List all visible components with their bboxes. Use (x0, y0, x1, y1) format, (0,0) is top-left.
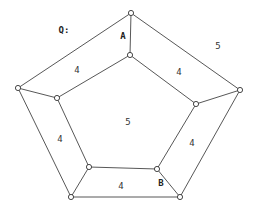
vertex-outer-bottom-right (177, 194, 182, 199)
planar-graph-diagram: Q: A B 5 5 4 4 4 4 4 (0, 0, 256, 209)
graph-name-label: Q: (59, 26, 70, 35)
face-label-center: 5 (125, 118, 130, 127)
face-label-left: 4 (57, 135, 62, 144)
spoke-left (18, 88, 57, 98)
face-label-upper-right: 4 (176, 68, 181, 77)
face-label-right: 4 (189, 139, 194, 148)
vertex-outer-left (15, 85, 20, 90)
spoke-bottom-left (71, 167, 89, 197)
face-label-outer: 5 (215, 42, 220, 51)
vertex-inner-top (127, 52, 132, 57)
vertex-outer-right (237, 87, 242, 92)
spoke-top (130, 13, 131, 55)
edge-label-b: B (158, 179, 163, 188)
vertex-outer-top (128, 10, 133, 15)
outer-pentagon (18, 13, 240, 197)
vertex-inner-right (193, 101, 198, 106)
vertex-outer-bottom-left (68, 194, 73, 199)
vertex-inner-left (54, 95, 59, 100)
vertex-inner-bottom-left (86, 164, 91, 169)
graph-edges (0, 0, 256, 209)
edge-label-a: A (120, 32, 125, 41)
face-label-upper-left: 4 (74, 66, 79, 75)
face-label-bottom: 4 (118, 182, 123, 191)
vertex-inner-bottom-right (154, 166, 159, 171)
